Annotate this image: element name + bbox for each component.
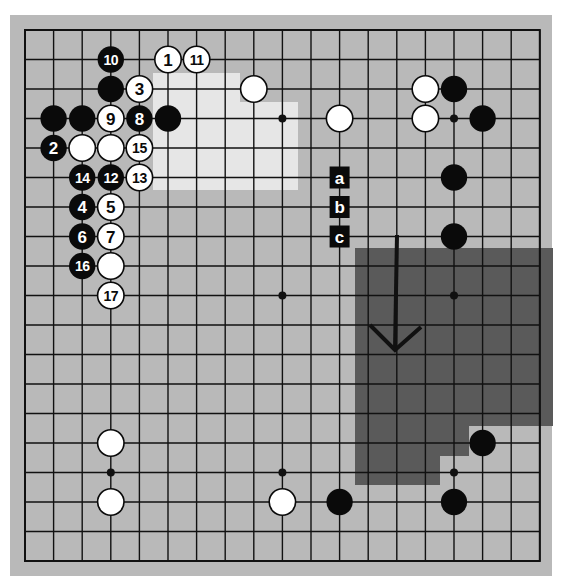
white-stone-icon: [326, 105, 352, 131]
white-stone: [98, 135, 124, 161]
move-number: 5: [106, 198, 115, 217]
black-stone-icon: [469, 430, 495, 456]
point-label-c: c: [330, 226, 350, 248]
point-label-b: b: [330, 196, 350, 218]
arrow-shaft: [395, 235, 397, 350]
move-number: 15: [132, 140, 147, 156]
star-point-icon: [278, 115, 286, 123]
label-letter: b: [334, 198, 344, 217]
white-stone-3: 3: [126, 76, 152, 102]
move-number: 9: [106, 110, 115, 129]
black-stone-icon: [98, 76, 124, 102]
black-stone: [155, 105, 181, 131]
white-stone: [69, 135, 95, 161]
star-point-icon: [450, 469, 458, 477]
white-stone-icon: [241, 76, 267, 102]
white-stone-icon: [69, 135, 95, 161]
star-point-icon: [278, 469, 286, 477]
move-number: 2: [49, 139, 58, 158]
black-stone: [326, 489, 352, 515]
white-stone-15: 15: [126, 135, 152, 161]
white-stone-icon: [98, 430, 124, 456]
move-number: 17: [104, 288, 119, 304]
label-letter: a: [335, 169, 345, 188]
white-stone-7: 7: [98, 223, 124, 249]
white-stone-17: 17: [98, 282, 124, 308]
black-stone-4: 4: [69, 194, 95, 220]
black-stone-14: 14: [69, 164, 95, 190]
black-stone-16: 16: [69, 253, 95, 279]
black-stone: [441, 76, 467, 102]
black-stone: [441, 164, 467, 190]
move-number: 14: [75, 170, 90, 186]
black-stone-icon: [326, 489, 352, 515]
black-stone-10: 10: [98, 46, 124, 72]
move-number: 3: [135, 80, 144, 99]
move-number: 11: [190, 52, 205, 68]
black-stone-icon: [69, 105, 95, 131]
black-stone: [441, 223, 467, 249]
white-stone-13: 13: [126, 164, 152, 190]
white-stone-icon: [98, 253, 124, 279]
star-point-icon: [450, 115, 458, 123]
point-label-a: a: [330, 167, 350, 189]
go-board-diagram: abc 1011139821514121345671617: [0, 0, 563, 581]
black-stone-icon: [441, 223, 467, 249]
black-stone: [469, 105, 495, 131]
go-board-svg: abc 1011139821514121345671617: [0, 0, 563, 581]
white-stone-icon: [269, 489, 295, 515]
black-stone-icon: [469, 105, 495, 131]
label-letter: c: [335, 228, 344, 247]
white-stone-icon: [412, 105, 438, 131]
black-stone-icon: [155, 105, 181, 131]
black-stone-icon: [441, 164, 467, 190]
black-stone-icon: [441, 76, 467, 102]
white-stone-icon: [412, 76, 438, 102]
white-stone: [98, 430, 124, 456]
star-point-icon: [278, 292, 286, 300]
move-number: 16: [75, 258, 90, 274]
star-point-icon: [107, 469, 115, 477]
black-stone: [441, 489, 467, 515]
white-stone: [412, 105, 438, 131]
star-point-icon: [450, 292, 458, 300]
black-stone: [69, 105, 95, 131]
black-stone: [469, 430, 495, 456]
black-stone-12: 12: [98, 164, 124, 190]
white-stone-11: 11: [183, 46, 209, 72]
move-number: 4: [77, 198, 87, 217]
white-stone-9: 9: [98, 105, 124, 131]
white-stone-5: 5: [98, 194, 124, 220]
move-number: 10: [104, 52, 119, 68]
white-stone-icon: [98, 489, 124, 515]
black-stone: [98, 76, 124, 102]
white-stone: [326, 105, 352, 131]
black-stone-2: 2: [40, 135, 66, 161]
white-stone-1: 1: [155, 46, 181, 72]
black-stone-icon: [441, 489, 467, 515]
black-stone-icon: [40, 105, 66, 131]
move-number: 13: [132, 170, 147, 186]
white-stone: [412, 76, 438, 102]
move-number: 7: [106, 228, 115, 247]
move-number: 12: [104, 170, 119, 186]
black-stone-8: 8: [126, 105, 152, 131]
white-stone: [241, 76, 267, 102]
move-number: 1: [163, 51, 172, 70]
black-stone-6: 6: [69, 223, 95, 249]
move-number: 8: [135, 110, 144, 129]
white-stone: [98, 489, 124, 515]
black-stone: [40, 105, 66, 131]
white-stone-icon: [98, 135, 124, 161]
move-number: 6: [77, 228, 86, 247]
white-stone: [98, 253, 124, 279]
point-labels: abc: [330, 167, 350, 248]
white-stone: [269, 489, 295, 515]
